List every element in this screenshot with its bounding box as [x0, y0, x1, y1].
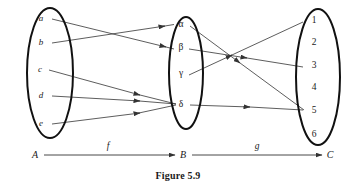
ellipse-a-outline: [27, 8, 73, 138]
axis-node-A: A: [31, 149, 39, 160]
element-4: 4: [312, 82, 317, 92]
arrow-alpha-to-5-tail: [238, 62, 304, 111]
mapping-label-g: g: [255, 141, 260, 151]
set-ellipse-C: [296, 9, 340, 145]
figure-container: a b c d e α β γ δ 1 2 3 4 5 6 A B C f: [0, 0, 356, 190]
axis-node-B: B: [180, 149, 186, 160]
arrow-d-to-delta: [52, 96, 140, 101]
set-b-elements: α β γ δ: [178, 19, 184, 109]
set-a-elements: a b c d e: [38, 13, 44, 128]
ellipse-c-outline: [296, 9, 340, 145]
arrow-c-to-delta: [49, 70, 140, 95]
mapping-diagram: a b c d e α β γ δ 1 2 3 4 5 6 A B C f: [0, 0, 356, 190]
axis-node-C: C: [327, 149, 334, 160]
element-gamma: γ: [178, 68, 183, 78]
element-3: 3: [312, 60, 317, 70]
element-5: 5: [312, 105, 317, 115]
element-b: b: [39, 37, 44, 47]
element-c: c: [38, 64, 42, 74]
mapping-label-f: f: [107, 141, 111, 151]
mapping-arrows-g: [189, 22, 304, 110]
set-ellipse-B: [169, 17, 203, 129]
arrow-b-to-alpha-tail: [163, 25, 174, 27]
arrow-beta-to-3-tail: [245, 58, 303, 67]
element-1: 1: [312, 15, 317, 25]
arrow-gamma-to-1: [189, 55, 232, 75]
element-e: e: [39, 118, 43, 128]
ellipse-b-outline: [169, 17, 203, 129]
arrow-a-to-beta-tail: [164, 47, 174, 50]
element-a: a: [39, 13, 44, 23]
arrow-e-to-delta-tail: [138, 105, 176, 113]
set-ellipse-A: [27, 8, 73, 138]
element-beta: β: [179, 42, 184, 52]
element-2: 2: [312, 37, 317, 47]
element-6: 6: [312, 129, 317, 139]
set-c-elements: 1 2 3 4 5 6: [312, 15, 317, 139]
arrow-delta-to-5-tail: [248, 107, 303, 110]
element-delta: δ: [179, 99, 184, 109]
function-axis: A B C f g: [31, 141, 334, 160]
arrow-gamma-to-1-tail: [230, 22, 303, 56]
element-d: d: [39, 90, 44, 100]
figure-caption: Figure 5.9: [0, 170, 356, 181]
arrow-beta-to-3: [189, 49, 247, 58]
element-alpha: α: [179, 19, 184, 29]
